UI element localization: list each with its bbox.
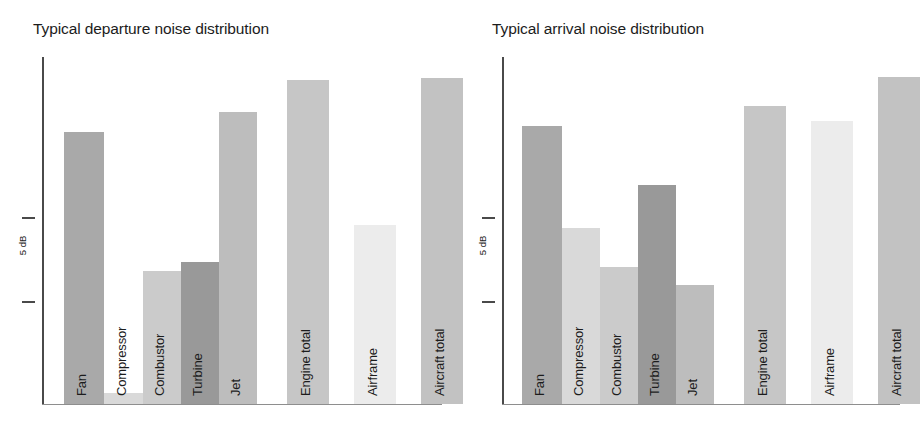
bar: Airframe <box>811 121 853 404</box>
bar: Fan <box>64 132 104 404</box>
scale-tick-bottom <box>482 301 495 303</box>
bar: Turbine <box>638 185 676 404</box>
arrival-chart-panel: Typical arrival noise distribution 5 dB … <box>458 0 916 429</box>
bar: Aircraft total <box>878 77 920 404</box>
bar-label: Turbine <box>190 353 205 396</box>
scale-tick-bottom <box>22 301 35 303</box>
bar-label: Airframe <box>365 348 380 396</box>
scale-reference-label: 5 dB <box>17 215 28 277</box>
bar-label: Compressor <box>571 327 586 396</box>
bar: Compressor <box>104 393 143 404</box>
departure-plot-area: 5 dB FanCompressorCombustorTurbineJetEng… <box>42 57 442 405</box>
bar-label: Airframe <box>822 348 837 396</box>
bar-label: Fan <box>74 374 89 396</box>
departure-scale-reference: 5 dB <box>14 217 38 303</box>
bar: Combustor <box>600 267 638 404</box>
arrival-bar-group: FanCompressorCombustorTurbineJetEngine t… <box>504 57 900 404</box>
bar-label: Aircraft total <box>889 329 904 396</box>
departure-chart-panel: Typical departure noise distribution 5 d… <box>0 0 458 429</box>
bar-label: Engine total <box>755 329 770 396</box>
bar-label: Combustor <box>152 334 167 396</box>
bar: Jet <box>219 112 257 404</box>
bar-label: Combustor <box>609 334 624 396</box>
arrival-plot-area: 5 dB FanCompressorCombustorTurbineJetEng… <box>502 57 900 405</box>
bar: Engine total <box>744 106 786 404</box>
bar: Airframe <box>354 225 396 404</box>
bar: Jet <box>676 285 714 404</box>
bar: Combustor <box>143 271 181 404</box>
arrival-x-axis-line <box>502 404 900 405</box>
arrival-chart-title: Typical arrival noise distribution <box>492 20 704 38</box>
bar-label: Jet <box>685 379 700 396</box>
departure-chart-title: Typical departure noise distribution <box>33 20 269 38</box>
bar: Fan <box>522 126 562 404</box>
arrival-scale-reference: 5 dB <box>474 217 498 303</box>
bar: Turbine <box>181 262 219 404</box>
bar-label: Compressor <box>113 327 128 396</box>
bar: Aircraft total <box>421 78 463 404</box>
scale-reference-label: 5 dB <box>477 215 488 277</box>
departure-bar-group: FanCompressorCombustorTurbineJetEngine t… <box>44 57 442 404</box>
bar-label: Jet <box>228 379 243 396</box>
bar-label: Fan <box>532 374 547 396</box>
bar-label: Turbine <box>647 353 662 396</box>
bar: Engine total <box>287 80 329 404</box>
bar: Compressor <box>562 228 600 404</box>
bar-label: Aircraft total <box>432 329 447 396</box>
departure-x-axis-line <box>42 404 442 405</box>
bar-label: Engine total <box>298 329 313 396</box>
